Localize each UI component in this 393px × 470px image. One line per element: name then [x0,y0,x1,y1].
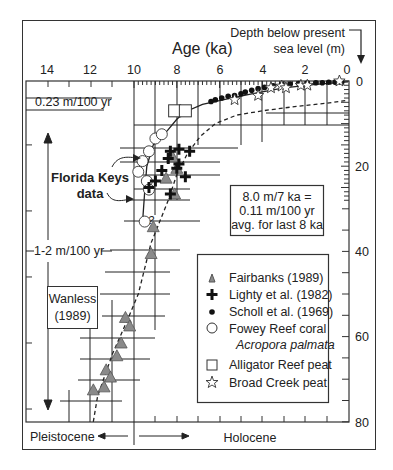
x-axis-title: Age (ka) [172,40,232,57]
plus-marker-icon [184,146,195,157]
x-tick-label: 2 [302,63,309,77]
legend-label: Alligator Reef peat [229,358,332,372]
x-tick-label: 14 [40,63,54,77]
y-tick-label: 80 [355,416,369,430]
dot-marker-icon [320,80,326,86]
legend-label: Broad Creek peat [229,376,328,390]
range-arrow-up-icon [44,133,52,240]
y-tick-label: 60 [355,330,369,344]
legend-label: Fairbanks (1989) [229,271,324,285]
x-tick-label: 10 [127,63,141,77]
wanless-label-line1: Wanless [49,292,96,306]
square-marker-icon [179,105,191,117]
x-tick-labels: 14 12 10 8 6 4 2 0 [40,63,350,77]
y-tick-label: 40 [355,245,369,259]
triangle-marker-icon [87,384,99,395]
range-arrow-down-icon [44,262,52,410]
legend: Fairbanks (1989) Lighty et al. (1982) Sc… [198,255,335,403]
x-tick-label: 4 [260,63,267,77]
rate-top-label: 0.23 m/100 yr [35,95,111,109]
florida-arrow-2-head-icon [126,195,134,203]
circle-marker-icon [156,129,167,140]
y-axis-title-line1: Depth below present [230,26,345,40]
rate-mid-label: 1-2 m/100 yr [34,244,104,258]
dot-marker-icon [242,89,248,95]
legend-label: Lighty et al. (1982) [229,288,333,302]
dot-marker-icon [213,97,219,103]
pleistocene-arrow-icon [98,433,128,439]
florida-keys-label-line2: data [77,186,105,201]
sea-level-chart: Age (ka) Depth below present sea level (… [0,0,393,470]
y-tick-labels: 0 20 40 60 80 [355,75,369,430]
dot-marker-icon [209,309,215,315]
average-line2: 0.11 m/100 yr [239,204,315,218]
y-tick-label: 20 [355,160,369,174]
circle-marker-icon [143,146,154,157]
square-marker-icon [207,360,217,370]
y-tick-label: 0 [356,75,363,89]
legend-label: Scholl et al. (1969) [229,305,333,319]
florida-keys-label-line1: Florida Keys [51,170,129,185]
triangle-marker-icon [111,350,123,361]
dot-marker-icon [313,80,319,86]
x-tick-label: 0 [344,63,351,77]
holocene-arrow-icon [139,433,189,439]
legend-label: Fowey Reef coral [229,322,326,336]
dot-marker-icon [249,88,255,94]
x-tick-label: 12 [83,63,97,77]
average-line3: avg. for last 8 ka [231,218,323,232]
circle-marker-icon [133,166,144,177]
holocene-label: Holocene [224,431,277,445]
legend-label-species: Acropora palmata [235,338,335,352]
triangle-marker-icon [98,381,110,392]
dot-marker-icon [326,79,332,85]
wanless-label-line2: (1989) [54,309,90,323]
depth-arrow-icon [349,30,365,64]
x-tick-label: 6 [217,63,224,77]
average-line1: 8.0 m/7 ka = [242,190,311,204]
triangle-marker-icon [115,337,127,348]
dot-marker-icon [219,95,225,101]
x-tick-label: 8 [174,63,181,77]
circle-marker-icon [207,323,217,333]
pleistocene-label: Pleistocene [30,430,95,444]
uncertain-marker: ? [148,214,155,226]
y-axis-title-line2: sea level (m) [273,42,345,56]
plus-marker-icon [173,144,184,155]
